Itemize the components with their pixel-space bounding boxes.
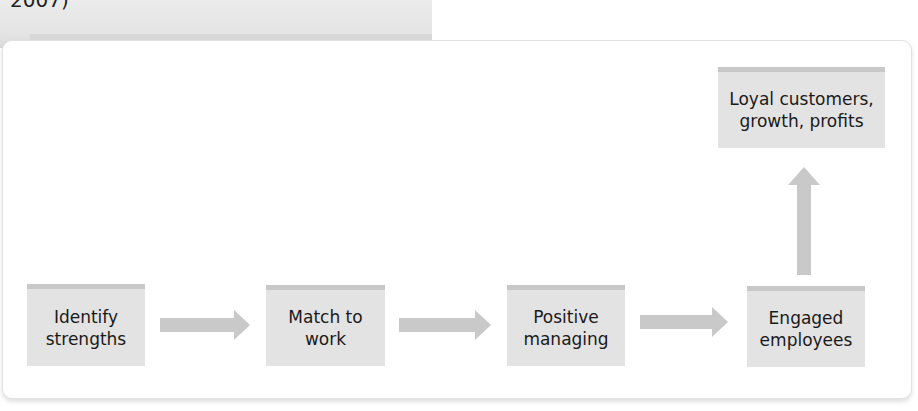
- node-label-line2: employees: [760, 329, 853, 351]
- node-loyal-customers: Loyal customers, growth, profits: [718, 67, 885, 148]
- arrow-right-icon: [160, 310, 250, 340]
- node-engaged-employees: Engaged employees: [747, 286, 865, 367]
- node-positive-managing: Positive managing: [507, 285, 625, 366]
- node-label-line2: strengths: [46, 328, 126, 350]
- caption-text: 2007): [10, 0, 69, 12]
- node-label-line1: Match to: [288, 306, 362, 328]
- arrow-right-icon: [640, 307, 728, 337]
- node-label-line1: Identify: [46, 306, 126, 328]
- node-label-line2: managing: [523, 328, 608, 350]
- node-match-to-work: Match to work: [266, 285, 385, 366]
- node-label-line1: Positive: [523, 306, 608, 328]
- arrow-right-icon: [399, 310, 491, 340]
- node-identify-strengths: Identify strengths: [27, 284, 145, 366]
- node-label-line2: growth, profits: [729, 110, 874, 132]
- node-label-line2: work: [288, 328, 362, 350]
- node-label-line1: Engaged: [760, 307, 853, 329]
- node-label-line1: Loyal customers,: [729, 88, 874, 110]
- arrow-up-icon: [788, 167, 820, 275]
